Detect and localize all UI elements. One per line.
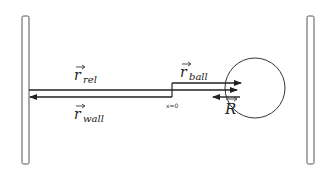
label-r-ball: r ball	[180, 62, 208, 82]
label-r-wall: r wall	[74, 104, 104, 124]
label-R: R	[224, 97, 237, 118]
svg-text:r: r	[180, 64, 188, 80]
right-wall	[307, 16, 314, 164]
svg-text:R: R	[224, 100, 236, 118]
svg-text:wall: wall	[83, 113, 104, 124]
svg-text:r: r	[74, 67, 82, 83]
svg-text:rel: rel	[83, 74, 97, 85]
svg-text:ball: ball	[189, 71, 208, 82]
left-wall	[22, 16, 29, 164]
label-r-rel: r rel	[74, 65, 97, 85]
svg-text:r: r	[74, 106, 82, 122]
label-origin: x=0	[166, 102, 179, 109]
vector-diagram: r rel r wall r ball R x=0	[0, 0, 330, 173]
